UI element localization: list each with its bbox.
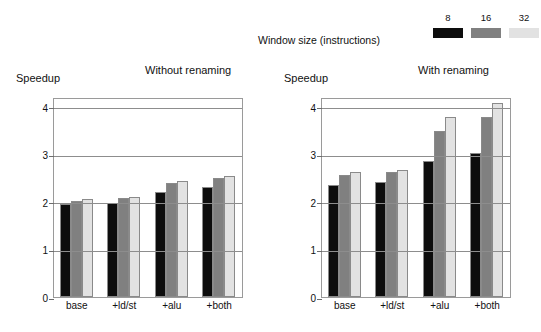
bar — [71, 201, 82, 297]
bar — [107, 203, 118, 297]
gridline — [54, 108, 242, 109]
bar-group--ld-st — [105, 99, 145, 297]
bar — [423, 161, 434, 297]
plot-area: 01234 — [53, 98, 243, 298]
x-axis-label: +ld/st — [368, 300, 416, 311]
bar — [339, 175, 350, 297]
bar — [445, 117, 456, 297]
x-axis-label: +both — [463, 300, 511, 311]
bar-group--both — [468, 99, 508, 297]
bar — [470, 153, 481, 297]
y-axis-tick-label: 4 — [32, 104, 48, 114]
y-axis-tick — [317, 251, 322, 252]
bar — [177, 181, 188, 297]
bar — [492, 103, 503, 297]
gridline — [322, 156, 510, 157]
legend-title: Window size (instructions) — [258, 34, 380, 46]
y-axis-label: Speedup — [16, 72, 60, 84]
bar — [129, 197, 140, 297]
chart-with-renaming: Speedup With renaming 01234 base+ld/st+a… — [268, 60, 536, 332]
legend-key-32: 32 — [509, 12, 539, 50]
legend-key-8: 8 — [433, 12, 463, 50]
bar — [224, 176, 235, 297]
y-axis-tick — [49, 203, 54, 204]
y-axis-tick-label: 0 — [300, 294, 316, 304]
x-axis-label: +ld/st — [100, 300, 148, 311]
y-axis-tick-label: 3 — [300, 151, 316, 161]
bar-groups — [322, 99, 510, 297]
plot-area: 01234 — [321, 98, 511, 298]
x-axis-label: base — [321, 300, 369, 311]
legend-key-label: 16 — [471, 12, 501, 23]
gridline — [54, 203, 242, 204]
bar-group-base — [58, 99, 98, 297]
y-axis-tick — [49, 251, 54, 252]
bar — [397, 170, 408, 297]
y-axis-tick-label: 1 — [32, 246, 48, 256]
bar — [213, 178, 224, 297]
gridline — [322, 251, 510, 252]
y-axis-tick-label: 4 — [300, 104, 316, 114]
bar — [375, 182, 386, 297]
legend: Window size (instructions) 8 16 32 — [258, 12, 530, 52]
x-axis-labels: base+ld/st+alu+both — [321, 300, 511, 318]
gridline — [322, 108, 510, 109]
chart-title: Without renaming — [145, 64, 231, 76]
chart-without-renaming: Speedup Without renaming 01234 base+ld/s… — [0, 60, 268, 332]
legend-keys: 8 16 32 — [433, 12, 533, 52]
bar-group--ld-st — [373, 99, 413, 297]
legend-swatch-icon — [509, 28, 539, 38]
bar — [118, 198, 129, 297]
legend-swatch-icon — [471, 28, 501, 38]
bar — [328, 185, 339, 297]
y-axis-tick — [49, 156, 54, 157]
bar — [155, 192, 166, 297]
legend-key-16: 16 — [471, 12, 501, 50]
gridline — [54, 156, 242, 157]
legend-key-label: 8 — [433, 12, 463, 23]
x-axis-label: +alu — [148, 300, 196, 311]
bar-group--alu — [421, 99, 461, 297]
x-axis-label: base — [53, 300, 101, 311]
y-axis-tick — [317, 203, 322, 204]
y-axis-tick-label: 3 — [32, 151, 48, 161]
x-axis-label: +alu — [416, 300, 464, 311]
y-axis-tick-label: 2 — [32, 199, 48, 209]
y-axis-tick-label: 1 — [300, 246, 316, 256]
legend-key-label: 32 — [509, 12, 539, 23]
y-axis-tick-label: 2 — [300, 199, 316, 209]
chart-title: With renaming — [418, 64, 489, 76]
y-axis-tick — [49, 108, 54, 109]
bar — [82, 199, 93, 297]
x-axis-labels: base+ld/st+alu+both — [53, 300, 243, 318]
gridline — [322, 203, 510, 204]
bar-group-base — [326, 99, 366, 297]
bar — [481, 117, 492, 297]
y-axis-tick — [317, 108, 322, 109]
y-axis-tick — [317, 156, 322, 157]
bar-groups — [54, 99, 242, 297]
bar — [350, 172, 361, 297]
bar-group--both — [200, 99, 240, 297]
legend-swatch-icon — [433, 28, 463, 38]
gridline — [54, 251, 242, 252]
y-axis-label: Speedup — [284, 72, 328, 84]
bar — [386, 172, 397, 297]
y-axis-tick-label: 0 — [32, 294, 48, 304]
bar — [166, 183, 177, 297]
bar-group--alu — [153, 99, 193, 297]
x-axis-label: +both — [195, 300, 243, 311]
